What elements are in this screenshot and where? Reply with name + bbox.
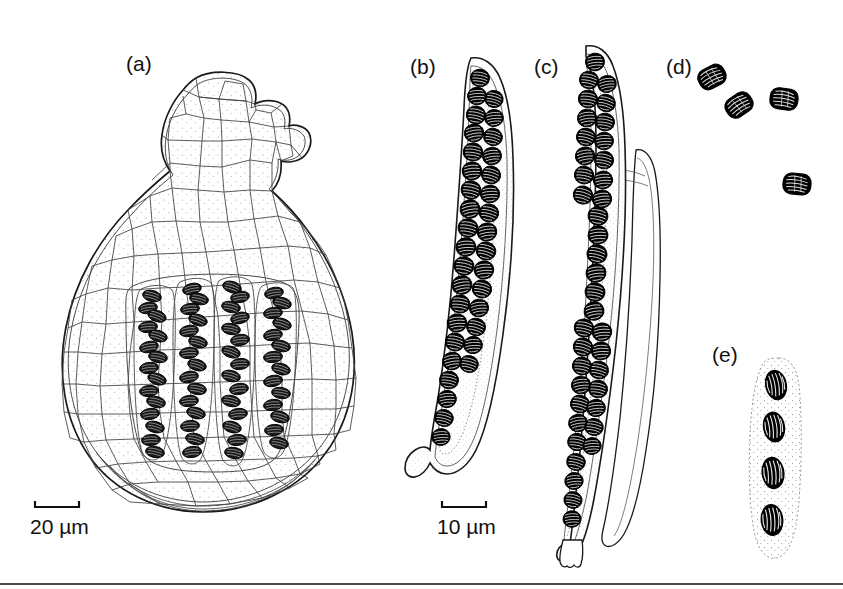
ascus-c-foot <box>560 540 583 567</box>
panel-label-b: (b) <box>410 55 436 79</box>
free-spore-1 <box>695 61 730 93</box>
sporocarp-outline <box>62 72 354 512</box>
panel-a-sporocarp <box>62 72 356 512</box>
scalebar-b-graphic <box>442 501 486 508</box>
panel-c-ascus <box>557 46 661 568</box>
scalebar-a-label: 20 µm <box>30 515 89 539</box>
illustration-canvas <box>0 0 843 589</box>
scalebar-b: 10 µm <box>437 512 496 539</box>
footer-divider <box>0 583 843 585</box>
panel-label-c: (c) <box>534 55 559 79</box>
panel-d-free-spores <box>695 61 812 196</box>
scalebar-a-graphic <box>35 501 79 508</box>
panel-label-e: (e) <box>712 343 738 367</box>
panel-b-ascus <box>405 58 514 477</box>
panel-label-a: (a) <box>126 52 152 76</box>
free-spore-4 <box>782 172 812 196</box>
figure-container: (a) (b) (c) (d) (e) 20 µm 10 µm <box>0 0 843 589</box>
scalebar-b-label: 10 µm <box>437 515 496 539</box>
scalebar-a: 20 µm <box>30 512 89 539</box>
free-spore-3 <box>769 87 800 112</box>
panel-e-spore-chain <box>749 358 801 558</box>
panel-label-d: (d) <box>666 55 692 79</box>
free-spore-2 <box>722 88 757 121</box>
